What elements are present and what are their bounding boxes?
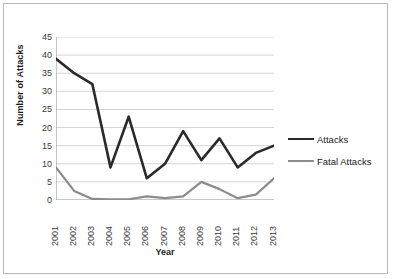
x-tick-label: 2009 bbox=[196, 226, 205, 246]
x-tick-label: 2002 bbox=[69, 226, 78, 246]
y-tick-label: 45 bbox=[30, 33, 52, 41]
y-tick-label: 35 bbox=[30, 69, 52, 77]
plot-area bbox=[56, 37, 274, 200]
x-tick-label: 2013 bbox=[269, 226, 278, 246]
y-tick-label: 40 bbox=[30, 51, 52, 59]
y-tick-label: 0 bbox=[30, 196, 52, 204]
legend-swatch-icon bbox=[288, 138, 314, 140]
legend-item-attacks[interactable]: Attacks bbox=[288, 128, 388, 150]
x-tick-label: 2007 bbox=[160, 226, 169, 246]
y-tick-label: 5 bbox=[30, 178, 52, 186]
series-line-attacks bbox=[56, 59, 274, 179]
series-line-fatal-attacks bbox=[56, 167, 274, 199]
x-tick-label: 2006 bbox=[141, 226, 150, 246]
x-tick-label: 2004 bbox=[105, 226, 114, 246]
x-tick-label: 2005 bbox=[123, 226, 132, 246]
y-tick-label: 30 bbox=[30, 87, 52, 95]
y-tick-label: 20 bbox=[30, 124, 52, 132]
x-axis-tick-labels: 2001200220032004200520062007200820092010… bbox=[56, 202, 274, 246]
legend-label: Attacks bbox=[317, 134, 348, 145]
x-tick-label: 2008 bbox=[178, 226, 187, 246]
x-tick-label: 2001 bbox=[51, 226, 60, 246]
x-tick-label: 2011 bbox=[232, 227, 241, 246]
chart-canvas bbox=[56, 37, 274, 200]
y-axis-title: Number of Attacks bbox=[15, 25, 25, 145]
legend-label: Fatal Attacks bbox=[317, 156, 371, 167]
x-tick-label: 2003 bbox=[87, 226, 96, 246]
x-tick-label: 2012 bbox=[250, 226, 259, 246]
legend-swatch-icon bbox=[288, 160, 314, 162]
chart-frame: Number of Attacks 454035302520151050 200… bbox=[3, 3, 388, 274]
x-axis-title: Year bbox=[56, 247, 274, 257]
y-axis-tick-labels: 454035302520151050 bbox=[30, 4, 52, 279]
chart-legend: AttacksFatal Attacks bbox=[288, 128, 388, 172]
y-tick-label: 25 bbox=[30, 105, 52, 113]
y-tick-label: 10 bbox=[30, 160, 52, 168]
x-tick-label: 2010 bbox=[214, 226, 223, 246]
legend-item-fatal-attacks[interactable]: Fatal Attacks bbox=[288, 150, 388, 172]
y-tick-label: 15 bbox=[30, 142, 52, 150]
